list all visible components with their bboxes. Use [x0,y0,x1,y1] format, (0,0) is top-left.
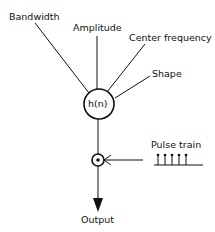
bandwidth-line [35,23,89,93]
center-frequency-line [107,44,145,92]
output-arrowhead [93,198,103,212]
label-filter: h(n) [88,99,107,109]
label-bandwidth: Bandwidth [9,12,60,22]
label-shape: Shape [152,69,182,79]
label-output: Output [81,215,114,225]
shape-line [115,76,150,98]
label-pulse-train: Pulse train [151,140,201,150]
label-amplitude: Amplitude [73,23,122,33]
label-center-frequency: Center frequency [129,33,212,43]
